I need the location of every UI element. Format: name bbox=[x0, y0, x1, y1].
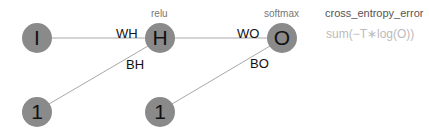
activation-output: softmax bbox=[264, 8, 299, 19]
node-output: O bbox=[267, 23, 297, 53]
node-bias-hidden: 1 bbox=[22, 97, 52, 127]
activation-hidden: relu bbox=[151, 8, 168, 19]
node-input: I bbox=[22, 23, 52, 53]
edge-label-bo: BO bbox=[250, 56, 269, 71]
edge-bias-h bbox=[49, 46, 148, 104]
loss-name: cross_entropy_error bbox=[325, 7, 423, 19]
edges-layer bbox=[0, 0, 429, 140]
edge-label-wh: WH bbox=[116, 26, 138, 41]
node-bias-output: 1 bbox=[145, 97, 175, 127]
node-hidden: H bbox=[145, 23, 175, 53]
loss-formula: sum(−T∗log(O)) bbox=[326, 27, 414, 41]
edge-label-wo: WO bbox=[237, 26, 259, 41]
edge-label-bh: BH bbox=[126, 57, 144, 72]
edge-bias-o bbox=[172, 46, 270, 104]
